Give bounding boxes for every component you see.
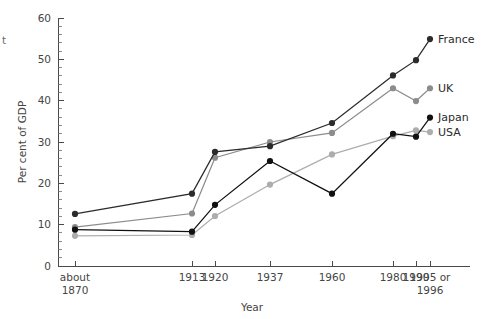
- data-point-marker: [413, 98, 419, 104]
- data-point-marker: [329, 120, 335, 126]
- data-point-marker: [267, 181, 273, 187]
- data-point-marker: [72, 227, 78, 233]
- data-point-marker: [189, 191, 195, 197]
- margin-char-text: t: [2, 34, 6, 46]
- series-line-france: [75, 39, 430, 214]
- cropped-margin-character: t: [2, 34, 6, 46]
- y-axis-tick-label: 30: [38, 136, 51, 148]
- line-chart-plot: t 0102030405060 about1870191319201937196…: [0, 0, 497, 319]
- chart-series-group: [72, 36, 433, 239]
- data-point-marker: [427, 85, 433, 91]
- series-line-uk: [75, 88, 430, 227]
- x-axis-tick-labels: about18701913192019371960198019901995 or…: [60, 271, 451, 296]
- data-point-marker: [267, 158, 273, 164]
- data-point-marker: [329, 151, 335, 157]
- data-point-marker: [329, 130, 335, 136]
- data-point-marker: [267, 143, 273, 149]
- data-point-marker: [390, 131, 396, 137]
- y-axis-tick-label: 60: [38, 12, 51, 24]
- series-line-japan: [75, 118, 430, 232]
- y-axis-tick-labels: 0102030405060: [38, 12, 51, 272]
- series-label-japan: Japan: [437, 111, 469, 124]
- data-point-marker: [212, 149, 218, 155]
- data-point-marker: [390, 85, 396, 91]
- x-axis-tick-label: 1920: [202, 271, 229, 283]
- y-axis-tick-label: 0: [44, 260, 51, 272]
- chart-container: t 0102030405060 about1870191319201937196…: [0, 0, 497, 319]
- series-inline-labels: FranceUKJapanUSA: [437, 33, 475, 139]
- data-point-marker: [212, 202, 218, 208]
- y-axis-tick-label: 10: [38, 218, 51, 230]
- data-point-marker: [413, 57, 419, 63]
- y-axis-tick-label: 20: [38, 177, 51, 189]
- data-point-marker: [427, 115, 433, 121]
- data-point-marker: [427, 129, 433, 135]
- series-line-usa: [75, 130, 430, 235]
- x-axis-tick-label: 1937: [257, 271, 284, 283]
- x-axis-tick-label-second-line: 1996: [417, 284, 444, 296]
- data-point-marker: [413, 127, 419, 133]
- y-axis-title: Per cent of GDP: [16, 101, 28, 183]
- data-point-marker: [212, 213, 218, 219]
- series-label-france: France: [438, 33, 475, 46]
- data-point-marker: [329, 191, 335, 197]
- x-axis-tick-label: 1995 or: [410, 271, 451, 283]
- data-point-marker: [72, 233, 78, 239]
- series-label-usa: USA: [438, 126, 461, 139]
- x-axis-tick-label-second-line: 1870: [62, 284, 89, 296]
- data-point-marker: [189, 229, 195, 235]
- data-point-marker: [72, 211, 78, 217]
- data-point-marker: [390, 72, 396, 78]
- y-axis-tick-label: 40: [38, 94, 51, 106]
- x-axis-tick-label: about: [60, 271, 90, 283]
- x-axis-title: Year: [240, 301, 264, 313]
- series-label-uk: UK: [438, 82, 454, 95]
- data-point-marker: [189, 210, 195, 216]
- x-axis-tick-label: 1960: [319, 271, 346, 283]
- data-point-marker: [427, 36, 433, 42]
- chart-axes: [58, 18, 470, 266]
- data-point-marker: [413, 134, 419, 140]
- y-axis-tick-label: 50: [38, 53, 51, 65]
